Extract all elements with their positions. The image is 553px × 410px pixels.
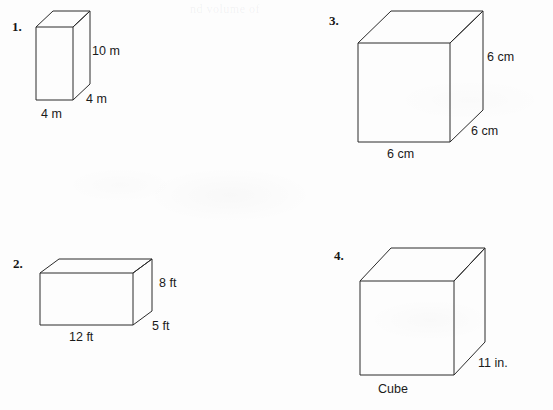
figure-4-caption: Cube: [378, 382, 408, 396]
figure-1-width-label: 4 m: [41, 107, 62, 121]
figure-3-height-label: 6 cm: [487, 50, 514, 64]
figure-2-width-label: 12 ft: [69, 330, 93, 344]
figure-4-depth-label: 11 in.: [478, 356, 508, 370]
figure-3-width-label: 6 cm: [387, 147, 414, 161]
figure-4-cube-drawing: [330, 235, 530, 395]
figure-3-prism-drawing: [330, 0, 530, 175]
figure-3-depth-label: 6 cm: [471, 124, 498, 138]
bleed-through-text: nd volume of: [190, 2, 260, 17]
figure-2-depth-label: 5 ft: [152, 319, 169, 333]
figure-1-height-label: 10 m: [92, 44, 120, 58]
worksheet-page: nd volume of 1. 10 m 4 m 4 m 3.: [0, 0, 553, 410]
figure-2-prism-drawing: [0, 250, 200, 360]
figure-2-height-label: 8 ft: [159, 276, 176, 290]
figure-1-depth-label: 4 m: [86, 92, 107, 106]
